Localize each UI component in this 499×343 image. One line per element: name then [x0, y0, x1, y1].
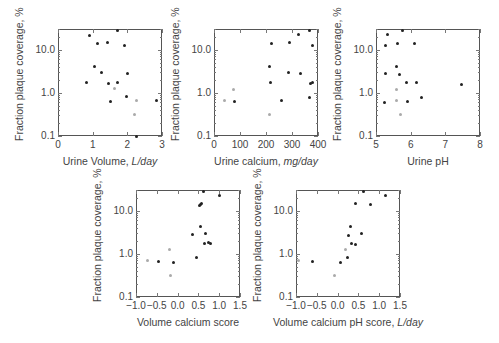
- y-axis-label: Fraction plaque coverage, %: [91, 168, 103, 302]
- x-tick-label: 1.5: [385, 300, 415, 311]
- y-minor-tick: [398, 267, 400, 268]
- data-point-gray: [333, 274, 336, 277]
- y-minor-tick: [316, 106, 318, 107]
- x-tick: [292, 29, 293, 33]
- y-minor-tick: [316, 67, 318, 68]
- y-minor-tick: [478, 63, 480, 64]
- y-minor-tick: [238, 260, 240, 261]
- data-point-black: [386, 33, 389, 36]
- y-minor-tick: [296, 198, 298, 199]
- y-minor-tick: [238, 220, 240, 221]
- y-minor-tick: [214, 93, 218, 94]
- y-minor-tick: [296, 217, 298, 218]
- y-minor-tick: [398, 224, 400, 225]
- data-point-black: [202, 190, 205, 193]
- data-point-black: [100, 71, 103, 74]
- plot-frame: [214, 29, 318, 136]
- x-tick: [198, 190, 199, 194]
- x-tick: [240, 132, 241, 136]
- y-minor-tick: [214, 115, 216, 116]
- y-minor-tick: [58, 59, 60, 60]
- x-tick: [317, 293, 318, 297]
- y-minor-tick: [214, 67, 216, 68]
- y-minor-tick: [136, 241, 138, 242]
- x-axis-label: Urine pH: [346, 155, 499, 167]
- y-minor-tick: [316, 115, 318, 116]
- y-minor-tick: [478, 115, 480, 116]
- x-axis-label-unit: L/day: [132, 155, 158, 167]
- x-tick: [240, 293, 241, 297]
- y-minor-tick: [316, 37, 318, 38]
- x-tick: [376, 132, 377, 136]
- x-tick: [296, 190, 297, 194]
- data-point-black: [269, 81, 272, 84]
- y-minor-tick: [136, 215, 138, 216]
- y-tick-label: 1.0: [103, 248, 133, 259]
- y-minor-tick: [398, 217, 400, 218]
- y-minor-tick: [214, 110, 216, 111]
- data-point-black: [347, 234, 350, 237]
- y-minor-tick: [398, 241, 400, 242]
- y-minor-tick: [160, 59, 162, 60]
- y-minor-tick: [214, 99, 216, 100]
- x-tick: [240, 190, 241, 194]
- y-minor-tick: [238, 224, 240, 225]
- y-minor-tick: [214, 102, 216, 103]
- x-tick: [162, 132, 163, 136]
- y-minor-tick: [376, 106, 378, 107]
- x-tick: [358, 293, 359, 297]
- plot-frame: [376, 29, 480, 136]
- y-minor-tick: [376, 102, 378, 103]
- y-minor-tick: [398, 228, 400, 229]
- y-minor-tick: [136, 211, 140, 212]
- y-minor-tick: [398, 263, 400, 264]
- x-tick-label: 6: [396, 139, 426, 150]
- data-point-black: [116, 29, 119, 32]
- y-minor-tick: [476, 93, 480, 94]
- data-point-black: [123, 44, 126, 47]
- y-minor-tick: [214, 123, 216, 124]
- x-tick: [198, 293, 199, 297]
- x-axis-label-unit: L/day: [397, 316, 423, 328]
- y-minor-tick: [376, 99, 378, 100]
- y-minor-tick: [160, 102, 162, 103]
- y-tick-label: 0.1: [343, 130, 373, 141]
- y-tick-label: 1.0: [181, 87, 211, 98]
- x-tick: [292, 132, 293, 136]
- data-point-black: [308, 29, 311, 32]
- y-minor-tick: [160, 110, 162, 111]
- y-minor-tick: [478, 37, 480, 38]
- y-minor-tick: [398, 233, 400, 234]
- y-minor-tick: [136, 233, 138, 234]
- data-point-gray: [297, 259, 300, 262]
- y-minor-tick: [316, 63, 318, 64]
- data-point-black: [116, 81, 119, 84]
- y-minor-tick: [214, 95, 216, 96]
- x-tick: [480, 29, 481, 33]
- y-minor-tick: [316, 56, 318, 57]
- y-minor-tick: [314, 50, 318, 51]
- y-axis-label: Fraction plaque coverage, %: [251, 168, 263, 302]
- x-tick: [338, 293, 339, 297]
- y-minor-tick: [160, 115, 162, 116]
- data-point-black: [268, 65, 271, 68]
- y-minor-tick: [376, 56, 378, 57]
- y-tick-label: 0.1: [263, 291, 293, 302]
- y-tick-label: 10.0: [103, 205, 133, 216]
- x-tick: [93, 132, 94, 136]
- y-minor-tick: [314, 136, 318, 137]
- y-minor-tick: [316, 102, 318, 103]
- y-minor-tick: [376, 80, 378, 81]
- data-point-black: [191, 233, 194, 236]
- x-tick: [318, 132, 319, 136]
- y-minor-tick: [136, 198, 138, 199]
- x-tick: [411, 29, 412, 33]
- x-tick: [318, 29, 319, 33]
- y-minor-tick: [316, 97, 318, 98]
- y-minor-tick: [296, 284, 298, 285]
- x-axis-label-unit: mg/day: [284, 155, 318, 167]
- y-minor-tick: [476, 136, 480, 137]
- y-tick-label: 10.0: [263, 205, 293, 216]
- y-minor-tick: [296, 263, 298, 264]
- y-minor-tick: [376, 72, 378, 73]
